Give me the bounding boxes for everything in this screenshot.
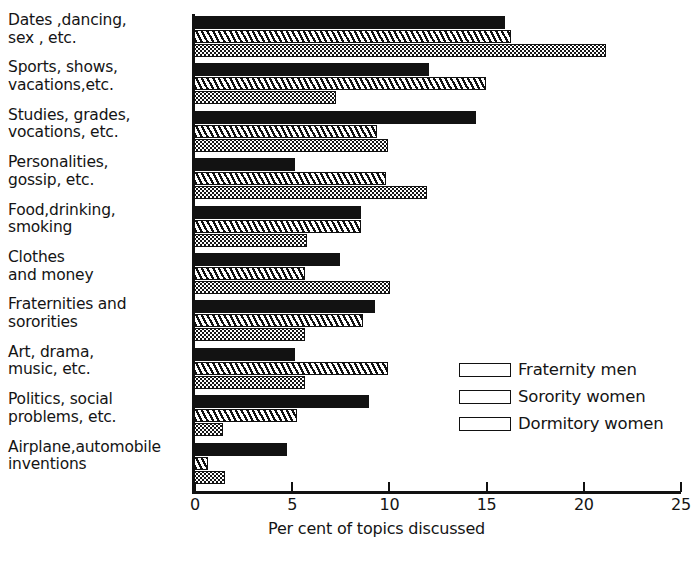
- bar-1-2: [194, 91, 336, 104]
- chart-legend: Fraternity menSorority womenDormitory wo…: [459, 356, 694, 437]
- bar-5-0: [194, 253, 340, 266]
- bar-0-1: [194, 30, 511, 43]
- x-tick-label-5: 5: [287, 495, 297, 514]
- bar-9-0: [194, 443, 287, 456]
- legend-item-2: Dormitory women: [459, 410, 694, 437]
- bar-group-2: [194, 111, 681, 158]
- legend-item-0: Fraternity men: [459, 356, 694, 383]
- bar-6-1: [194, 314, 363, 327]
- bar-3-2: [194, 186, 427, 199]
- y-axis-line: [192, 14, 195, 493]
- x-tick-label-25: 25: [671, 495, 691, 514]
- category-label-9: Airplane,automobile inventions: [8, 439, 161, 474]
- bar-2-0: [194, 111, 476, 124]
- bar-7-1: [194, 362, 388, 375]
- bar-group-5: [194, 253, 681, 300]
- bar-2-2: [194, 139, 388, 152]
- bar-3-0: [194, 158, 295, 171]
- bar-4-1: [194, 220, 361, 233]
- bar-9-1: [194, 457, 208, 470]
- legend-label-2: Dormitory women: [518, 414, 664, 433]
- bar-8-1: [194, 409, 297, 422]
- category-label-7: Art, drama, music, etc.: [8, 344, 94, 379]
- x-tick-0: [194, 482, 196, 492]
- x-tick-label-20: 20: [574, 495, 594, 514]
- category-label-column: Dates ,dancing, sex , etc.Sports, shows,…: [0, 0, 192, 500]
- bar-1-1: [194, 77, 486, 90]
- bar-7-0: [194, 348, 295, 361]
- bar-0-0: [194, 16, 505, 29]
- bar-8-2: [194, 423, 223, 436]
- bar-group-0: [194, 16, 681, 63]
- bar-7-2: [194, 376, 305, 389]
- category-label-5: Clothes and money: [8, 249, 93, 284]
- legend-label-1: Sorority women: [518, 387, 645, 406]
- bar-5-2: [194, 281, 390, 294]
- bar-2-1: [194, 125, 377, 138]
- x-tick-10: [388, 482, 390, 492]
- legend-swatch-dots-icon: [459, 417, 511, 431]
- bar-3-1: [194, 172, 386, 185]
- legend-swatch-hatch-icon: [459, 390, 511, 404]
- x-tick-25: [680, 482, 682, 492]
- bar-8-0: [194, 395, 369, 408]
- x-axis-title: Per cent of topics discussed: [268, 519, 485, 538]
- x-tick-20: [583, 482, 585, 492]
- category-label-1: Sports, shows, vacations,etc.: [8, 59, 118, 94]
- bar-5-1: [194, 267, 305, 280]
- x-tick-label-0: 0: [190, 495, 200, 514]
- bar-1-0: [194, 63, 429, 76]
- bar-6-0: [194, 300, 375, 313]
- legend-swatch-solid-icon: [459, 363, 511, 377]
- bar-group-9: [194, 443, 681, 490]
- x-tick-label-15: 15: [477, 495, 497, 514]
- x-tick-15: [486, 482, 488, 492]
- bar-6-2: [194, 328, 305, 341]
- bar-group-6: [194, 300, 681, 347]
- x-tick-label-10: 10: [380, 495, 400, 514]
- bar-group-3: [194, 158, 681, 205]
- category-label-2: Studies, grades, vocations, etc.: [8, 107, 130, 142]
- bar-4-0: [194, 206, 361, 219]
- legend-item-1: Sorority women: [459, 383, 694, 410]
- category-label-3: Personalities, gossip, etc.: [8, 154, 108, 189]
- category-label-0: Dates ,dancing, sex , etc.: [8, 12, 127, 47]
- category-label-4: Food,drinking, smoking: [8, 202, 116, 237]
- bar-9-2: [194, 471, 225, 484]
- bar-chart: Dates ,dancing, sex , etc.Sports, shows,…: [0, 0, 697, 561]
- category-label-8: Politics, social problems, etc.: [8, 391, 116, 426]
- bar-0-2: [194, 44, 606, 57]
- category-label-6: Fraternities and sororities: [8, 296, 126, 331]
- legend-label-0: Fraternity men: [518, 360, 637, 379]
- bar-group-4: [194, 206, 681, 253]
- bar-group-1: [194, 63, 681, 110]
- x-axis-line: [192, 491, 681, 494]
- x-tick-5: [291, 482, 293, 492]
- bar-4-2: [194, 234, 307, 247]
